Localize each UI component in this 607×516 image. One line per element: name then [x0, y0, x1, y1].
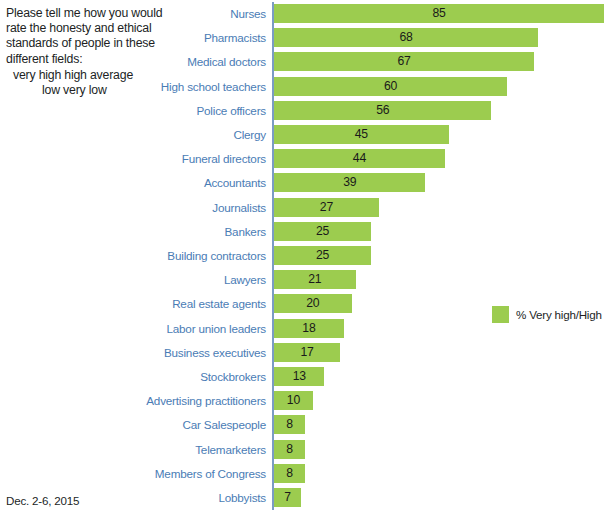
bar-value-label: 13	[288, 367, 310, 386]
plot-area: Nurses85Pharmacists68Medical doctors67Hi…	[0, 0, 607, 516]
category-label: Advertising practitioners	[146, 391, 266, 410]
bar-row: Medical doctors67	[0, 52, 607, 71]
bar-row: Bankers25	[0, 222, 607, 241]
category-label: Clergy	[233, 125, 266, 144]
bar-value-label: 45	[350, 125, 372, 144]
bar-value-label: 60	[379, 77, 401, 96]
category-label: Real estate agents	[172, 294, 266, 313]
bar-row: Clergy45	[0, 125, 607, 144]
category-label: Police officers	[196, 101, 266, 120]
bar-row: Stockbrokers13	[0, 367, 607, 386]
bar-value-label: 20	[302, 294, 324, 313]
category-label: Car Salespeople	[183, 415, 266, 434]
bar-value-label: 44	[348, 149, 370, 168]
category-label: Medical doctors	[187, 52, 266, 71]
bar-row: Funeral directors44	[0, 149, 607, 168]
category-label: Lawyers	[224, 270, 266, 289]
category-label: Funeral directors	[182, 149, 266, 168]
bar-row: Advertising practitioners10	[0, 391, 607, 410]
bar-row: Lobbyists7	[0, 488, 607, 507]
bar-value-label: 17	[296, 343, 318, 362]
legend-swatch-icon	[492, 306, 509, 323]
bar-row: Accountants39	[0, 173, 607, 192]
bar-row: Pharmacists68	[0, 28, 607, 47]
bar-value-label: 25	[312, 222, 334, 241]
category-label: Members of Congress	[155, 464, 266, 483]
bar-value-label: 27	[315, 198, 337, 217]
bar-row: Building contractors25	[0, 246, 607, 265]
bar-value-label: 68	[395, 28, 417, 47]
bar-value-label: 8	[279, 415, 301, 434]
bar-value-label: 7	[277, 488, 299, 507]
bar-value-label: 67	[393, 52, 415, 71]
category-label: Stockbrokers	[200, 367, 266, 386]
chart-container: Please tell me how you would rate the ho…	[0, 0, 607, 516]
bar-row: Telemarketers8	[0, 440, 607, 459]
footnote-date: Dec. 2-6, 2015	[6, 494, 79, 507]
bar-row: Car Salespeople8	[0, 415, 607, 434]
category-label: Bankers	[225, 222, 266, 241]
bar-value-label: 39	[339, 173, 361, 192]
category-label: Business executives	[164, 343, 266, 362]
bar-value-label: 56	[372, 101, 394, 120]
bar-value-label: 85	[428, 4, 450, 23]
bar-row: Members of Congress8	[0, 464, 607, 483]
bar-value-label: 21	[304, 270, 326, 289]
category-label: Pharmacists	[204, 28, 266, 47]
category-label: High school teachers	[161, 77, 266, 96]
bar-value-label: 8	[279, 440, 301, 459]
category-label: Telemarketers	[195, 440, 266, 459]
bar-value-label: 10	[282, 391, 304, 410]
bar-row: Police officers56	[0, 101, 607, 120]
bar-row: Journalists27	[0, 198, 607, 217]
bar-row: High school teachers60	[0, 77, 607, 96]
category-label: Journalists	[212, 198, 266, 217]
category-label: Nurses	[230, 4, 266, 23]
legend: % Very high/High	[492, 306, 602, 323]
bar-row: Lawyers21	[0, 270, 607, 289]
bar-value-label: 25	[312, 246, 334, 265]
bar-value-label: 18	[298, 319, 320, 338]
legend-label: % Very high/High	[516, 308, 602, 321]
category-label: Accountants	[204, 173, 266, 192]
bar-row: Business executives17	[0, 343, 607, 362]
bar-value-label: 8	[279, 464, 301, 483]
category-label: Labor union leaders	[166, 319, 266, 338]
bar-row: Nurses85	[0, 4, 607, 23]
category-label: Lobbyists	[218, 488, 266, 507]
category-label: Building contractors	[167, 246, 266, 265]
